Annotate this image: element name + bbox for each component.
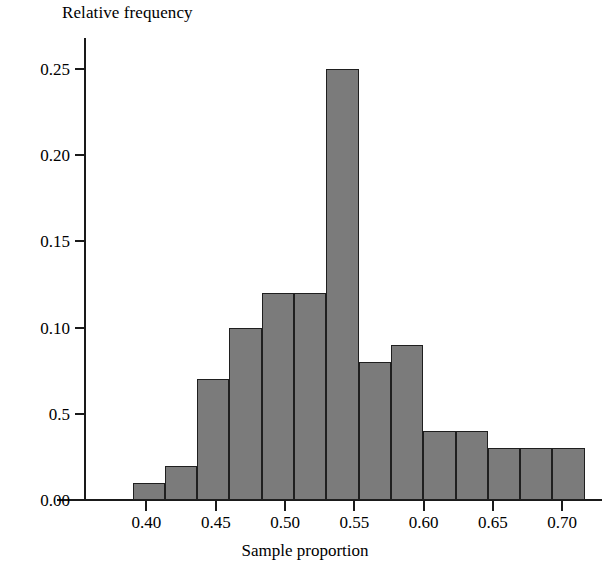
histogram-bar — [294, 293, 326, 500]
histogram-bar — [326, 69, 358, 500]
plot-area: 0.000.50.100.150.200.25 0.400.450.500.55… — [0, 0, 610, 577]
y-axis-tick — [75, 327, 85, 329]
x-axis-tick-label: 0.55 — [314, 513, 394, 533]
histogram-bar — [552, 448, 584, 500]
histogram-bar — [165, 466, 197, 500]
x-axis-tick — [423, 501, 425, 511]
y-axis-tick-label: 0.5 — [0, 406, 70, 423]
y-axis-tick — [75, 154, 85, 156]
x-axis-tick — [284, 501, 286, 511]
histogram-bar — [456, 431, 488, 500]
histogram-bar — [520, 448, 552, 500]
x-axis-tick — [353, 501, 355, 511]
y-axis-tick — [75, 68, 85, 70]
x-axis-tick-label: 0.65 — [453, 513, 533, 533]
y-axis-tick — [75, 413, 85, 415]
histogram-bar — [391, 345, 423, 500]
histogram-figure: Relative frequency 0.000.50.100.150.200.… — [0, 0, 610, 577]
y-axis-tick-label: 0.25 — [0, 61, 70, 78]
histogram-bar — [229, 328, 261, 500]
y-axis-line — [84, 38, 86, 501]
y-axis-tick-label: 0.10 — [0, 320, 70, 337]
x-axis-tick-label: 0.70 — [522, 513, 602, 533]
histogram-bar — [488, 448, 520, 500]
y-axis-tick — [75, 240, 85, 242]
x-axis-tick-label: 0.60 — [384, 513, 464, 533]
histogram-bar — [197, 379, 229, 500]
y-axis-tick-label: 0.20 — [0, 147, 70, 164]
x-axis-tick — [215, 501, 217, 511]
x-axis-tick-label: 0.50 — [245, 513, 325, 533]
y-axis-tick — [75, 499, 85, 501]
histogram-bar — [262, 293, 294, 500]
histogram-bar — [359, 362, 391, 500]
x-axis-tick-label: 0.45 — [176, 513, 256, 533]
x-axis-tick — [145, 501, 147, 511]
x-axis-tick-label: 0.40 — [106, 513, 186, 533]
x-axis-tick — [561, 501, 563, 511]
histogram-bar — [133, 483, 165, 500]
y-axis-tick-label: 0.15 — [0, 233, 70, 250]
x-axis-tick — [492, 501, 494, 511]
x-axis-title: Sample proportion — [0, 540, 610, 562]
histogram-bar — [423, 431, 455, 500]
y-axis-tick-label: 0.00 — [0, 492, 70, 509]
